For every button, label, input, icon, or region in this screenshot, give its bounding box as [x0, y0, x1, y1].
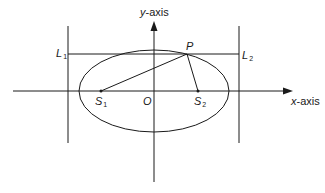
- s1-name: S: [95, 95, 102, 107]
- l2-name: L: [242, 49, 248, 61]
- y-axis-arrow-icon: [151, 21, 158, 31]
- focus-s1-dot: [100, 90, 103, 93]
- label-o: O: [143, 96, 152, 107]
- x-axis-suffix: -axis: [297, 95, 320, 107]
- y-axis-label: y-axis: [140, 7, 169, 18]
- segment-p-s2: [187, 54, 198, 91]
- s2-name: S: [194, 95, 201, 107]
- s2-sub: 2: [202, 101, 206, 108]
- label-s1: S1: [95, 96, 107, 108]
- x-axis-label: x-axis: [291, 96, 320, 107]
- focus-s2-dot: [197, 90, 200, 93]
- label-l2: L2: [242, 50, 253, 62]
- y-axis-suffix: -axis: [146, 6, 169, 18]
- l1-sub: 1: [63, 53, 67, 60]
- label-l1: L1: [56, 48, 67, 60]
- segment-s1-p: [101, 54, 187, 91]
- label-p: P: [186, 41, 193, 52]
- l2-sub: 2: [249, 55, 253, 62]
- label-s2: S2: [194, 96, 206, 108]
- o-name: O: [143, 95, 152, 107]
- diagram-canvas: [0, 0, 325, 193]
- x-axis-arrow-icon: [283, 88, 293, 95]
- l1-name: L: [56, 47, 62, 59]
- s1-sub: 1: [103, 101, 107, 108]
- ellipse-diagram: y-axis x-axis L1 L2 P S1 O S2: [0, 0, 325, 193]
- p-name: P: [186, 40, 193, 52]
